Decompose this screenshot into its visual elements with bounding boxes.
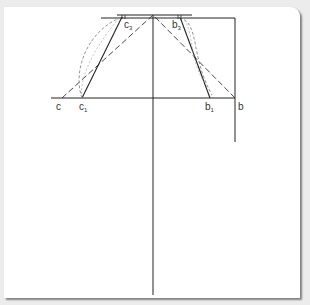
label-b1: b1	[205, 101, 215, 113]
curve-right-inner	[182, 17, 206, 85]
label-c3: c3	[124, 19, 133, 31]
label-c: c	[56, 101, 61, 112]
label-c1: c1	[79, 101, 88, 113]
solid-line-b1-b3	[180, 17, 210, 98]
dashed-line-c-apex	[62, 15, 153, 98]
label-b3: b3	[172, 19, 182, 31]
curve-left-inner	[82, 17, 120, 98]
label-b: b	[238, 101, 244, 112]
construction-diagram: c c1 c3 b3 b1 b	[0, 0, 310, 305]
